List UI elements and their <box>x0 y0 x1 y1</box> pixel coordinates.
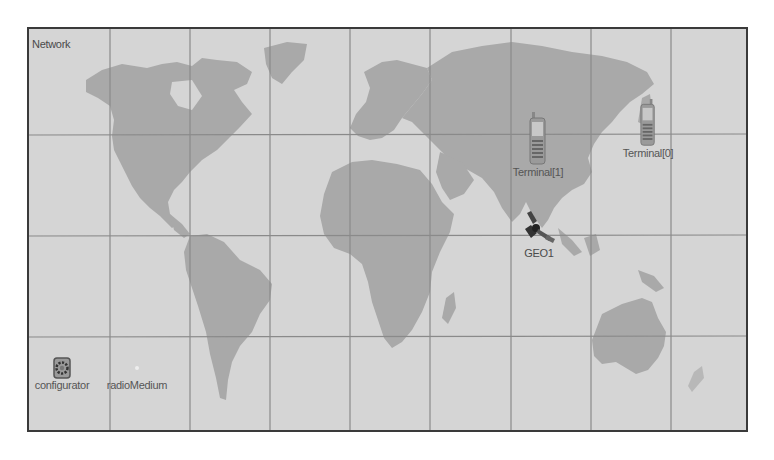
cellphone-icon <box>638 99 658 147</box>
node-label: configurator <box>29 379 95 391</box>
satellite-icon <box>521 211 557 247</box>
node-label: Terminal[1] <box>503 166 573 178</box>
network-canvas[interactable]: Network Terminal[1] <box>27 27 748 432</box>
south-america <box>184 234 272 400</box>
node-geo1[interactable]: GEO1 <box>519 211 559 259</box>
africa <box>320 160 454 348</box>
node-label: radioMedium <box>97 379 177 391</box>
node-configurator[interactable]: configurator <box>29 357 95 391</box>
radio-medium-icon <box>128 357 146 379</box>
node-label: Terminal[0] <box>613 147 683 159</box>
gear-icon <box>53 357 71 379</box>
north-america <box>86 58 252 228</box>
node-radio-medium[interactable]: radioMedium <box>97 357 177 391</box>
node-terminal-1[interactable]: Terminal[1] <box>503 112 573 178</box>
node-label: GEO1 <box>519 247 559 259</box>
cellphone-icon <box>528 112 548 166</box>
node-terminal-0[interactable]: Terminal[0] <box>613 99 683 159</box>
network-title: Network <box>32 38 70 50</box>
